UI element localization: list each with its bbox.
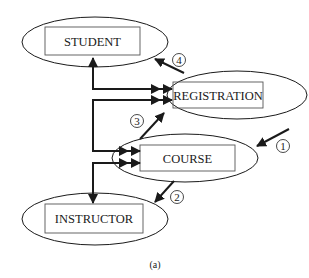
course-label: COURSE [163,152,213,166]
figure-caption: (a) [149,259,160,271]
step-2-badge: 2 [171,191,184,204]
connector-registration-student [93,58,172,89]
step-4-badge: 4 [173,54,186,67]
svg-text:4: 4 [176,54,182,66]
access-path-diagram: STUDENT REGISTRATION COURSE INSTRUCTOR [0,0,309,278]
node-course: COURSE [112,134,258,182]
step-3-badge: 3 [131,115,144,128]
connector-lines [93,58,172,203]
svg-text:3: 3 [134,115,140,127]
svg-text:2: 2 [174,191,180,203]
node-registration: REGISTRATION [167,71,307,119]
student-label: STUDENT [64,35,121,49]
instructor-label: INSTRUCTOR [55,212,134,226]
node-student: STUDENT [22,17,168,67]
node-instructor: INSTRUCTOR [22,193,168,245]
svg-text:1: 1 [280,140,286,152]
step-1-badge: 1 [277,140,290,153]
registration-label: REGISTRATION [173,89,263,103]
